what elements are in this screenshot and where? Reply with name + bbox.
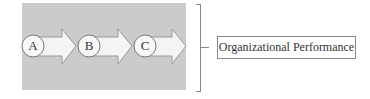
outcome-box: Organizational Performance	[217, 36, 356, 59]
stage-b-label: B	[78, 35, 100, 57]
stage-c-label: C	[134, 35, 156, 57]
grouping-bracket	[196, 4, 201, 92]
stage-a-label: A	[22, 35, 44, 57]
bracket-connector	[200, 47, 209, 48]
